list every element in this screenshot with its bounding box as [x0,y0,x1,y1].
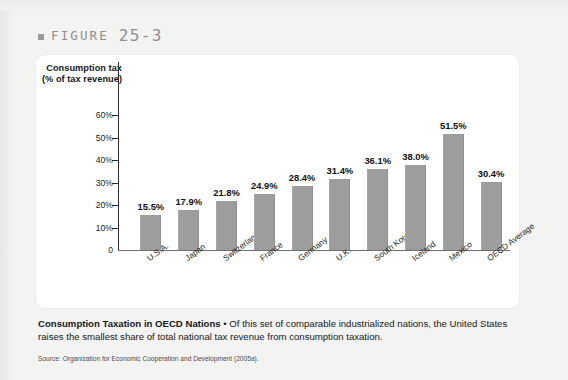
bar-u-k[interactable] [329,179,350,250]
y-axis-tick [112,228,119,229]
y-axis-tick-label: 60% [53,110,113,120]
bar-germany[interactable] [292,186,313,250]
y-axis-tick [112,205,119,206]
y-axis-tick-label: 10% [53,223,113,233]
y-axis-tick [112,160,119,161]
bar-value-label: 38.0% [389,151,443,162]
y-axis-tick-label: 0 [53,245,113,255]
bar-value-label: 30.4% [464,168,518,179]
y-axis-tick [112,115,119,116]
y-axis-line [118,62,119,251]
y-axis-tick-label: 30% [53,178,113,188]
bar-france[interactable] [254,194,275,250]
figure-caption: Consumption Taxation in OECD Nations • O… [38,317,510,344]
square-bullet-icon [38,34,44,40]
figure-source: Source: Organization for Economic Cooper… [38,354,478,363]
y-axis-tick [112,138,119,139]
bar-oecd-average[interactable] [481,182,502,250]
figure-label: FIGURE [51,28,109,43]
figure-number: 25-3 [119,26,163,45]
bar-south-korea[interactable] [367,169,388,250]
bar-iceland[interactable] [405,165,426,251]
y-axis-tick-label: 50% [53,133,113,143]
y-axis-tick-label: 40% [53,155,113,165]
bar-mexico[interactable] [443,134,464,250]
plot-area: 010%20%30%40%50%60%15.5%U.S.A.17.9%Japan… [36,55,519,308]
y-axis-tick [112,183,119,184]
bar-value-label: 51.5% [426,120,480,131]
chart-card: Consumption tax (% of tax revenue) 010%2… [36,55,519,308]
figure-page: FIGURE 25-3 Consumption tax (% of tax re… [0,0,568,380]
bar-switzerland[interactable] [216,201,237,250]
y-axis-tick-label: 20% [53,200,113,210]
bar-value-label: 31.4% [313,165,367,176]
caption-lead: Consumption Taxation in OECD Nations [38,318,221,329]
figure-header: FIGURE 25-3 [38,26,163,45]
